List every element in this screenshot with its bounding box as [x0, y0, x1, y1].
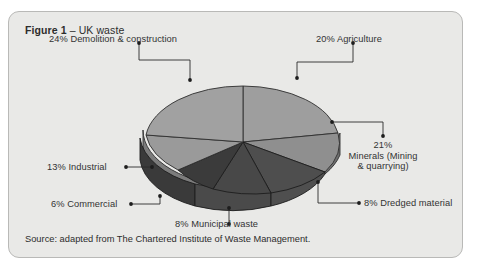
source-note: Source: adapted from The Chartered Insti… [25, 234, 310, 244]
leader-arrow-dredged [357, 201, 361, 205]
leader-arrow-industrial [124, 165, 128, 169]
leader-dot-demolition [188, 78, 192, 82]
label-minerals-line3: & quarrying) [327, 161, 439, 172]
label-dredged: 8% Dredged material [364, 198, 452, 209]
leader-dredged [318, 182, 359, 203]
leader-dot-industrial [150, 165, 154, 169]
leader-dot-municipal [227, 206, 231, 210]
leader-minerals [332, 122, 383, 136]
label-municipal: 8% Municipal waste [175, 219, 258, 230]
label-minerals-line2: Minerals (Mining [327, 151, 439, 162]
leader-agriculture [297, 43, 353, 78]
label-minerals-line1: 21% [327, 140, 439, 151]
leader-dot-commercial [158, 194, 162, 198]
label-industrial: 13% Industrial [47, 162, 107, 173]
figure-panel: Figure 1 – UK waste [8, 11, 463, 258]
leader-commercial [131, 196, 160, 204]
leader-demolition [139, 43, 190, 80]
label-commercial: 6% Commercial [51, 199, 117, 210]
leader-dot-agriculture [295, 76, 299, 80]
leader-arrow-commercial [129, 202, 133, 206]
leader-arrow-minerals [381, 134, 385, 138]
label-agriculture: 20% Agriculture [316, 34, 382, 45]
leader-dot-dredged [316, 180, 320, 184]
label-minerals: 21% Minerals (Mining & quarrying) [327, 140, 439, 172]
leader-dot-minerals [330, 120, 334, 124]
label-demolition: 24% Demolition & construction [49, 34, 177, 45]
